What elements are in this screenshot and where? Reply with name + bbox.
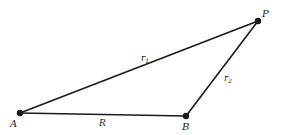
edge-label-bp: r2 <box>224 73 232 84</box>
edge-ab <box>20 113 186 116</box>
edge-label-ap: r1 <box>141 53 149 64</box>
vertex-label-a: A <box>9 118 17 129</box>
diagram-canvas: r1r2RABP <box>0 0 281 135</box>
triangle-diagram: r1r2RABP <box>0 0 281 135</box>
vertex-label-b: B <box>181 121 189 132</box>
vertex-label-p: P <box>261 8 269 19</box>
edge-label-ab: R <box>98 118 106 128</box>
point-b <box>183 113 189 119</box>
point-p <box>255 18 261 24</box>
point-a <box>17 110 23 116</box>
